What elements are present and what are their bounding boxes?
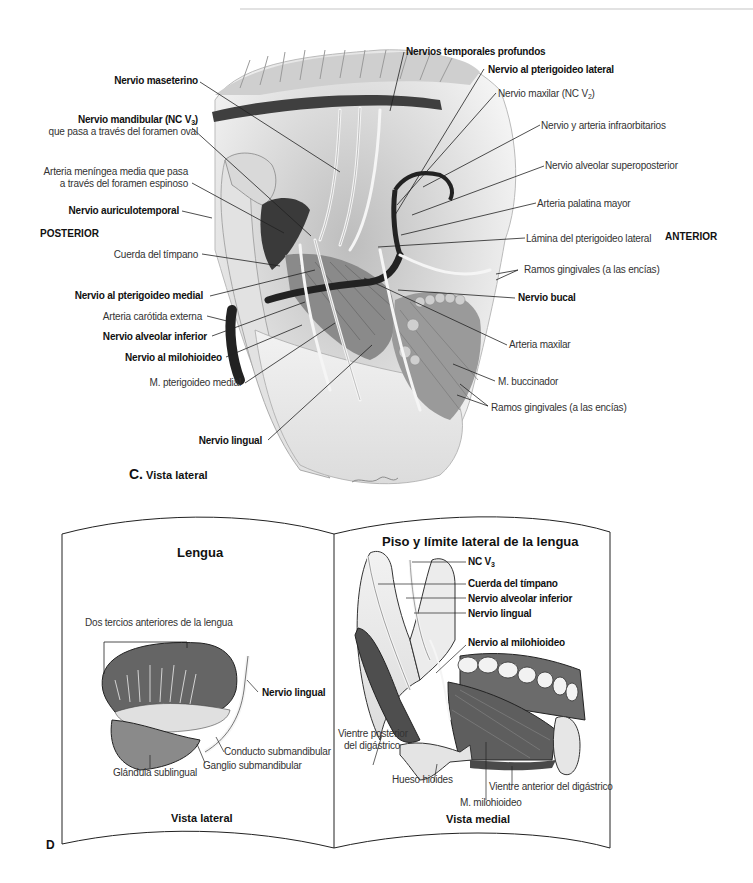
label-nc-v3: NC V3 (468, 556, 495, 571)
label-ramos-gingivales-inferior: Ramos gingivales (a las encías) (491, 402, 627, 414)
label-nervio-bucal: Nervio bucal (518, 292, 576, 304)
label-m-buccinador: M. buccinador (498, 376, 558, 388)
figure-c-illustration (212, 50, 516, 484)
label-nervio-milohioideo-d: Nervio al milohioideo (468, 637, 565, 649)
label-vientre-posterior-2: del digástrico (344, 740, 400, 752)
label-arteria-meningea-media-desc: a través del foramen espinoso (60, 178, 188, 190)
label-nervio-lingual-d: Nervio lingual (262, 687, 325, 699)
label-nervios-temporales-profundos: Nervios temporales profundos (406, 46, 545, 58)
label-arteria-meningea-media: Arteria meníngea media que pasa (44, 166, 188, 178)
label-nervio-alveolar-inferior: Nervio alveolar inferior (103, 331, 207, 343)
label-nervio-lingual: Nervio lingual (199, 435, 262, 447)
orientation-anterior: ANTERIOR (665, 231, 717, 242)
label-dos-tercios-anteriores: Dos tercios anteriores de la lengua (85, 617, 233, 629)
figure-c-caption: C. Vista lateral (129, 466, 208, 482)
label-nervio-mandibular-desc: que pasa a través del foramen oval (49, 126, 198, 138)
label-m-milohioideo: M. milohioideo (460, 797, 522, 809)
panel-title-lengua: Lengua (177, 545, 223, 560)
label-arteria-palatina-mayor: Arteria palatina mayor (537, 198, 630, 210)
label-vientre-anterior: Vientre anterior del digástrico (489, 781, 613, 793)
label-arteria-maxilar: Arteria maxilar (509, 339, 570, 351)
label-nervio-al-milohioideo: Nervio al milohioideo (125, 352, 222, 364)
label-cuerda-del-timpano: Cuerda del tímpano (114, 249, 198, 261)
label-nervio-alveolar-superoposterior: Nervio alveolar superoposterior (545, 160, 678, 172)
label-lamina-pterigoideo-lateral: Lámina del pterigoideo lateral (526, 233, 651, 245)
label-cuerda-timpano-d: Cuerda del tímpano (468, 578, 558, 590)
label-nervio-alveolar-inferior-d: Nervio alveolar inferior (468, 593, 572, 605)
panel-caption-vista-lateral: Vista lateral (171, 812, 233, 824)
label-arteria-carotida-externa: Arteria carótida externa (103, 311, 202, 323)
orientation-posterior: POSTERIOR (40, 228, 99, 239)
label-nervio-pterigoideo-lateral: Nervio al pterigoideo lateral (488, 64, 614, 76)
label-m-pterigoideo-medial: M. pterigoideo medial (150, 377, 241, 389)
label-ganglio-submandibular: Ganglio submandibular (203, 760, 302, 772)
label-vientre-posterior: Vientre posterior (338, 728, 408, 740)
label-nervio-auriculotemporal: Nervio auriculotemporal (69, 205, 179, 217)
label-nervio-maxilar: Nervio maxilar (NC V2) (498, 88, 595, 103)
label-nervio-lingual-d2: Nervio lingual (468, 608, 531, 620)
anatomy-figure: Nervio maseterino Nervio mandibular (NC … (0, 0, 753, 883)
panel-title-piso-lengua: Piso y límite lateral de la lengua (382, 534, 579, 549)
label-hueso-hioides: Hueso hioides (392, 774, 453, 786)
figure-d-letter: D (46, 838, 55, 852)
label-nervio-maseterino: Nervio maseterino (114, 75, 198, 87)
label-glandula-sublingual: Glándula sublingual (113, 767, 197, 779)
label-nervio-arteria-infraorbitarios: Nervio y arteria infraorbitarios (541, 120, 666, 132)
label-nervio-pterigoideo-medial: Nervio al pterigoideo medial (75, 290, 203, 302)
label-conducto-submandibular: Conducto submandibular (224, 746, 331, 758)
label-ramos-gingivales-superior: Ramos gingivales (a las encías) (524, 264, 660, 276)
panel-caption-vista-medial: Vista medial (446, 813, 510, 825)
